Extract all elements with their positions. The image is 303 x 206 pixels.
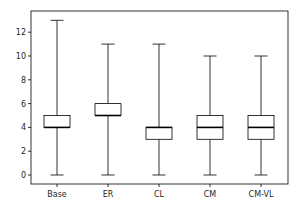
box-cm-vl <box>248 56 274 175</box>
iqr-box <box>146 127 172 139</box>
x-tick-label: CL <box>154 190 165 199</box>
y-tick-label: 6 <box>21 100 26 109</box>
x-tick-label: Base <box>47 190 67 199</box>
box-cm <box>197 56 223 175</box>
plot-area <box>44 20 274 175</box>
y-tick-label: 12 <box>16 28 26 37</box>
x-tick-label: ER <box>103 190 114 199</box>
y-tick-label: 2 <box>21 147 26 156</box>
iqr-box <box>95 104 121 116</box>
box-er <box>95 44 121 175</box>
x-tick-label: CM <box>204 190 217 199</box>
x-axis: BaseERCLCMCM-VL <box>47 184 274 199</box>
y-tick-label: 10 <box>16 52 26 61</box>
box-plot-chart: 024681012 BaseERCLCMCM-VL <box>0 0 303 206</box>
y-tick-label: 4 <box>21 123 26 132</box>
y-tick-label: 8 <box>21 76 26 85</box>
y-tick-label: 0 <box>21 171 26 180</box>
box-cl <box>146 44 172 175</box>
iqr-box <box>44 116 70 128</box>
box-base <box>44 20 70 175</box>
y-axis: 024681012 <box>16 28 31 180</box>
axes-frame <box>31 11 288 184</box>
x-tick-label: CM-VL <box>249 190 274 199</box>
